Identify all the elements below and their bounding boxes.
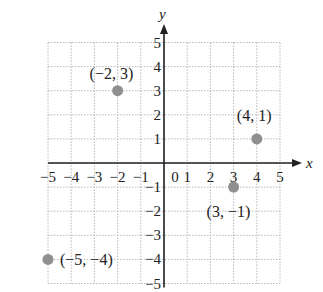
x-tick-label: −3 [86,169,102,185]
x-axis-arrow-icon [292,159,302,167]
coordinate-plane: xy −5−4−3−2−1012345−5−4−3−2−112345 (−2, … [0,0,323,292]
y-tick-label: −3 [145,227,161,243]
data-point [228,182,239,193]
y-axis-label: y [157,6,166,22]
x-tick-label: 4 [253,169,261,185]
y-tick-label: 5 [154,35,162,51]
y-tick-label: 3 [154,83,162,99]
x-tick-label: −5 [40,169,56,185]
y-tick-label: −2 [145,203,161,219]
x-axis-label: x [305,155,313,171]
x-tick-label: 0 [171,169,179,185]
y-tick-label: 1 [154,131,162,147]
point-label: (−2, 3) [90,65,134,83]
x-tick-label: 1 [183,169,191,185]
data-point [251,133,262,144]
x-tick-label: 2 [207,169,215,185]
x-tick-label: −2 [110,169,126,185]
y-tick-label: 2 [154,107,162,123]
x-tick-label: 5 [276,169,284,185]
y-tick-label: −5 [145,276,161,292]
data-point [43,254,54,265]
y-axis-arrow-icon [160,24,168,34]
x-tick-label: −4 [63,169,79,185]
y-tick-label: 4 [154,59,162,75]
axes: xy [48,6,313,288]
point-label: (3, −1) [207,203,251,221]
data-point [112,85,123,96]
y-tick-label: −4 [145,251,161,267]
point-label: (−5, −4) [60,251,113,269]
point-label: (4, 1) [237,107,272,125]
y-tick-label: −1 [145,179,161,195]
